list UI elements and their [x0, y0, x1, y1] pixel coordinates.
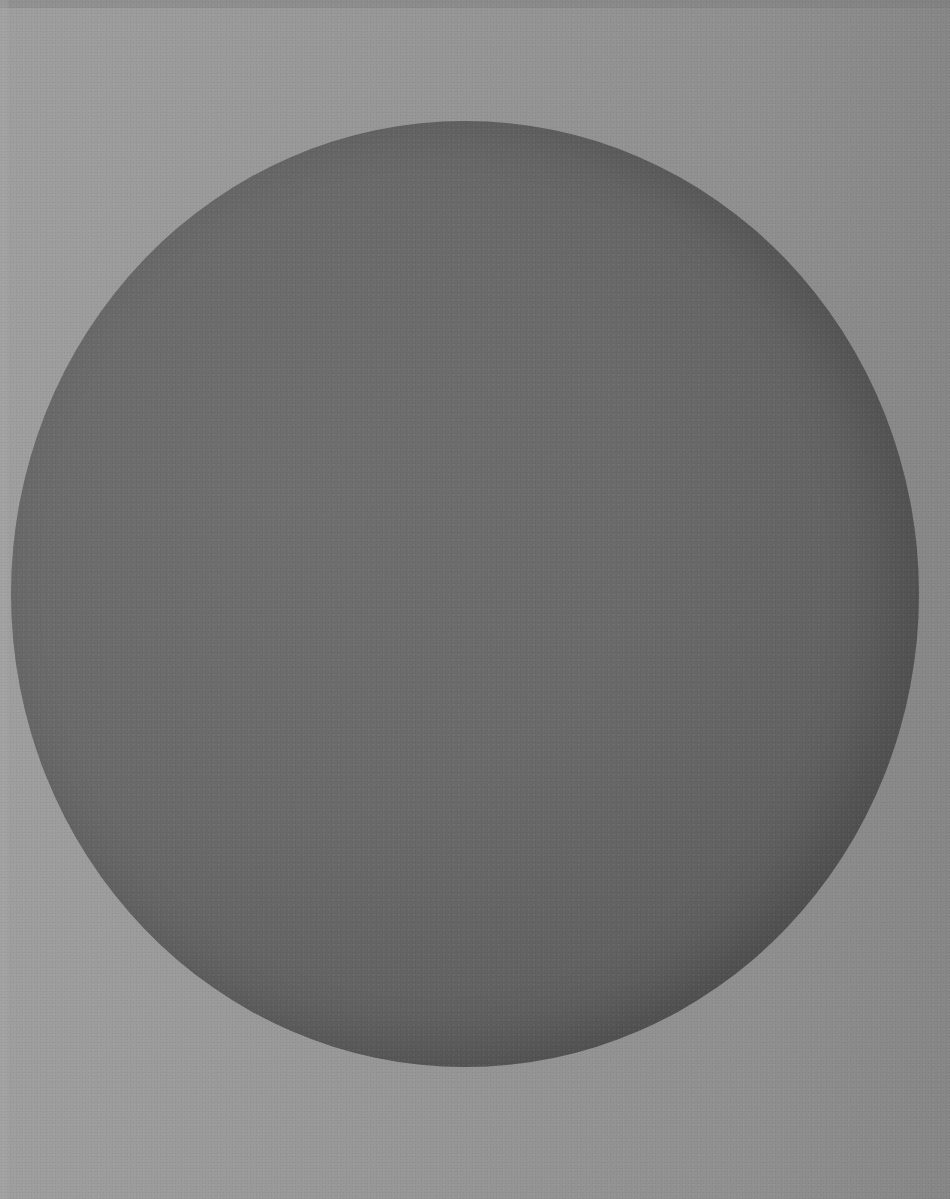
left-edge-shading — [0, 0, 8, 1199]
top-edge-shading — [0, 0, 950, 8]
image-canvas — [0, 0, 950, 1199]
gray-circle — [11, 121, 919, 1067]
